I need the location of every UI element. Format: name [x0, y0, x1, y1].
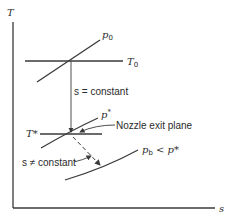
non-isentropic-label: s ≠ constant [22, 157, 76, 168]
pb-isobar [65, 150, 138, 180]
isentropic-label: s = constant [74, 86, 128, 97]
t-star-label: T* [26, 128, 38, 139]
x-axis-label: s [219, 203, 224, 214]
nozzle-exit-leader [80, 125, 115, 132]
pb-label: pb < p* [142, 144, 179, 157]
p-star-label: p* [101, 108, 111, 120]
p-star-isobar [41, 118, 98, 148]
t-s-diagram: T s T0 p0 s = constant T* p* Nozzle exit… [0, 0, 231, 220]
y-axis-label: T [7, 7, 15, 18]
p0-label: p0 [102, 29, 113, 42]
non-isentropic-leader [74, 156, 91, 162]
nozzle-exit-label: Nozzle exit plane [116, 120, 193, 131]
t0-label: T0 [127, 56, 138, 69]
